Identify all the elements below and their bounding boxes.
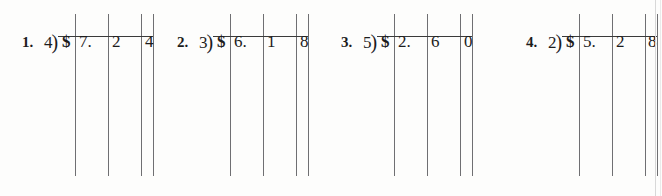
dividend-digit: 2 <box>616 32 625 52</box>
column-rule-line <box>75 14 76 176</box>
column-rule-line <box>263 14 264 176</box>
division-bracket-icon: ) <box>207 31 214 53</box>
column-rule-line <box>657 14 658 176</box>
dividend-digit: 0 <box>464 32 473 52</box>
column-rule-line <box>108 14 109 176</box>
column-rule-line <box>579 14 580 176</box>
divisor: 5) <box>363 31 378 53</box>
divisor: 4) <box>44 31 59 53</box>
currency-symbol: $ <box>217 32 226 52</box>
currency-symbol: $ <box>381 32 390 52</box>
division-vinculum <box>377 36 472 37</box>
division-bracket-icon: ) <box>556 31 563 53</box>
dividend-digit: 4 <box>145 32 154 52</box>
page-edge-artifact <box>660 0 661 196</box>
problem-number-label: 4. <box>526 33 537 51</box>
problem-number-label: 2. <box>177 33 188 51</box>
division-vinculum <box>562 36 657 37</box>
dividend-digit: 2. <box>398 32 411 52</box>
page-edge-artifact <box>655 0 656 196</box>
column-rule-line <box>230 14 231 176</box>
divisor: 3) <box>199 31 214 53</box>
division-bracket-icon: ) <box>371 31 378 53</box>
currency-symbol: $ <box>62 32 71 52</box>
dividend-digit: 2 <box>112 32 121 52</box>
dividend-digit: 6. <box>234 32 247 52</box>
column-rule-line <box>460 14 461 176</box>
column-rule-line <box>296 14 297 176</box>
column-rule-line <box>645 14 646 176</box>
currency-symbol: $ <box>566 32 575 52</box>
division-vinculum <box>58 36 153 37</box>
worksheet-page: 1.4)$7.242.3)$6.183.5)$2.604.2)$5.28 <box>0 0 662 196</box>
problem-number-label: 1. <box>22 33 33 51</box>
column-rule-line <box>394 14 395 176</box>
column-rule-line <box>141 14 142 176</box>
division-bracket-icon: ) <box>52 31 59 53</box>
column-rule-line <box>612 14 613 176</box>
dividend-digit: 7. <box>79 32 92 52</box>
dividend-digit: 5. <box>583 32 596 52</box>
column-rule-line <box>427 14 428 176</box>
dividend-digit: 8 <box>300 32 309 52</box>
division-vinculum <box>213 36 308 37</box>
dividend-digit: 6 <box>431 32 440 52</box>
dividend-digit: 1 <box>267 32 276 52</box>
problem-number-label: 3. <box>341 33 352 51</box>
divisor: 2) <box>548 31 563 53</box>
